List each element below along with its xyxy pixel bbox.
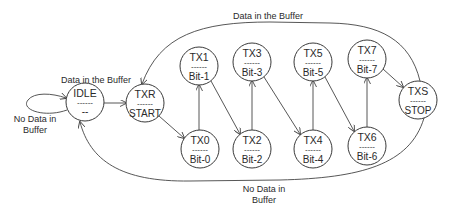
state-separator: ------ [191,62,207,71]
state-output: Bit-1 [189,71,210,82]
state-idle: IDLE ------ -- [66,83,104,121]
state-separator: ------ [410,96,426,105]
state-output: Bit-4 [303,154,324,165]
state-tx1: TX1 ------ Bit-1 [180,47,218,85]
label-txs-to-idle-line2: Buffer [252,195,276,205]
state-tx6: TX6 ------ Bit-6 [348,127,386,165]
state-output: START [129,108,161,119]
state-output: Bit-7 [357,64,378,75]
state-tx4: TX4 ------ Bit-4 [294,130,332,168]
state-output: Bit-0 [190,154,211,165]
state-output: -- [82,106,89,117]
label-idle-to-txr: Data in the Buffer [61,75,131,85]
state-tx3: TX3 ------ Bit-3 [233,43,271,81]
label-txs-to-idle-line1: No Data in [243,184,286,194]
state-tx2: TX2 ------ Bit-2 [233,130,271,168]
edge-tx7-txs [383,69,403,87]
state-separator: ------ [305,58,321,67]
state-separator: ------ [305,145,321,154]
state-output: Bit-6 [357,151,378,162]
label-idle-self-line2: Buffer [23,125,47,135]
state-separator: ------ [359,142,375,151]
state-separator: ------ [192,145,208,154]
nodes: IDLE ------ -- TXR ------ START TX0 ----… [66,40,437,168]
edge-txr-tx0 [159,116,184,138]
state-tx0: TX0 ------ Bit-0 [181,130,219,168]
state-output: STOP [404,105,431,116]
state-diagram: Data in the Buffer No Data in Buffer Dat… [0,0,458,212]
label-txs-to-txr: Data in the Buffer [233,11,303,21]
state-tx7: TX7 ------ Bit-7 [348,40,386,78]
edge-tx5-tx6 [325,77,354,131]
state-tx5: TX5 ------ Bit-5 [294,43,332,81]
edge-tx3-tx4 [264,77,300,134]
state-separator: ------ [244,145,260,154]
state-txs: TXS ------ STOP [399,81,437,119]
state-output: Bit-3 [242,67,263,78]
label-idle-self-line1: No Data in [14,114,57,124]
state-txr: TXR ------ START [126,84,164,122]
edge-idle-self [26,94,67,113]
state-separator: ------ [244,58,260,67]
state-output: Bit-5 [303,67,324,78]
edge-tx1-tx2 [211,81,240,134]
state-separator: ------ [137,99,153,108]
state-separator: ------ [359,55,375,64]
state-output: Bit-2 [242,154,263,165]
